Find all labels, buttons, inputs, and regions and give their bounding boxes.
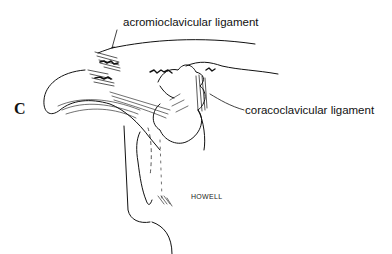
panel-letter: C	[14, 100, 26, 118]
acromioclavicular-ligament-label: acromioclavicular ligament	[123, 16, 259, 28]
anatomy-figure: acromioclavicular ligament coracoclavicu…	[0, 0, 392, 254]
coracoclavicular-ligament-label: coracoclavicular ligament	[245, 104, 374, 116]
shoulder-line-drawing	[0, 0, 392, 254]
artist-signature: HOWELL	[191, 193, 222, 200]
